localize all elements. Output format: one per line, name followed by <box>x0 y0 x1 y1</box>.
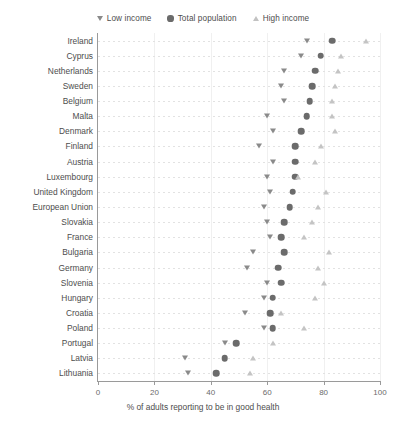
data-point-circle[interactable] <box>267 310 274 317</box>
legend-item-high-income[interactable]: High income <box>253 14 310 23</box>
x-tick-mark <box>98 381 99 385</box>
data-point-triangle-down[interactable] <box>264 174 270 179</box>
x-tick-label: 80 <box>319 388 328 397</box>
x-tick-label: 40 <box>206 388 215 397</box>
data-point-circle[interactable] <box>281 249 288 256</box>
data-point-triangle-down[interactable] <box>185 371 191 376</box>
data-point-triangle-down[interactable] <box>281 99 287 104</box>
data-point-circle[interactable] <box>275 264 282 271</box>
data-point-triangle-down[interactable] <box>264 114 270 119</box>
data-point-circle[interactable] <box>317 52 324 59</box>
data-point-triangle-down[interactable] <box>264 220 270 225</box>
y-axis-label: Lithuania <box>59 368 93 378</box>
data-point-triangle-down[interactable] <box>270 159 276 164</box>
data-point-triangle-down[interactable] <box>264 280 270 285</box>
data-point-triangle-up[interactable] <box>312 295 318 300</box>
y-gridline <box>98 146 380 147</box>
data-point-circle[interactable] <box>213 370 220 377</box>
data-point-triangle-up[interactable] <box>301 326 307 331</box>
data-point-triangle-down[interactable] <box>244 265 250 270</box>
data-point-triangle-down[interactable] <box>250 250 256 255</box>
y-axis-label: Denmark <box>59 126 93 136</box>
data-point-triangle-down[interactable] <box>261 205 267 210</box>
data-point-triangle-up[interactable] <box>363 38 369 43</box>
y-gridline <box>98 373 380 374</box>
data-point-circle[interactable] <box>329 37 336 44</box>
data-point-triangle-up[interactable] <box>332 83 338 88</box>
data-point-triangle-down[interactable] <box>304 38 310 43</box>
data-point-circle[interactable] <box>298 128 305 135</box>
x-tick-mark <box>324 381 325 385</box>
data-point-triangle-up[interactable] <box>250 356 256 361</box>
y-axis-label: European Union <box>32 202 93 212</box>
data-point-triangle-up[interactable] <box>315 265 321 270</box>
data-point-triangle-up[interactable] <box>309 220 315 225</box>
legend-item-low-income[interactable]: Low income <box>97 14 152 23</box>
data-point-circle[interactable] <box>281 219 288 226</box>
data-point-circle[interactable] <box>306 98 313 105</box>
data-point-triangle-down[interactable] <box>281 68 287 73</box>
y-gridline <box>98 268 380 269</box>
data-point-triangle-down[interactable] <box>298 53 304 58</box>
y-gridline <box>98 298 380 299</box>
x-tick-label: 100 <box>373 388 386 397</box>
data-point-triangle-down[interactable] <box>267 189 273 194</box>
data-point-triangle-down[interactable] <box>261 295 267 300</box>
data-point-circle[interactable] <box>289 189 296 196</box>
y-axis-label: Belgium <box>63 96 93 106</box>
y-axis-category-labels: IrelandCyprusNetherlandsSwedenBelgiumMal… <box>0 33 93 381</box>
y-gridline <box>98 162 380 163</box>
y-axis-label: Germany <box>59 263 93 273</box>
y-axis-label: France <box>67 232 93 242</box>
data-point-circle[interactable] <box>278 234 285 241</box>
data-point-triangle-up[interactable] <box>301 235 307 240</box>
data-point-triangle-up[interactable] <box>312 159 318 164</box>
data-point-triangle-down[interactable] <box>267 235 273 240</box>
y-axis-label: Finland <box>66 141 93 151</box>
data-point-circle[interactable] <box>233 340 240 347</box>
data-point-triangle-up[interactable] <box>323 189 329 194</box>
data-point-triangle-down[interactable] <box>222 341 228 346</box>
data-point-triangle-down[interactable] <box>182 356 188 361</box>
data-point-triangle-up[interactable] <box>247 371 253 376</box>
data-point-triangle-up[interactable] <box>329 99 335 104</box>
data-point-triangle-up[interactable] <box>326 250 332 255</box>
data-point-triangle-up[interactable] <box>338 53 344 58</box>
data-point-triangle-up[interactable] <box>332 129 338 134</box>
legend-item-total-population[interactable]: Total population <box>167 14 236 23</box>
data-point-circle[interactable] <box>292 158 299 165</box>
chart-legend: Low income Total population High income <box>0 14 406 23</box>
y-gridline <box>98 101 380 102</box>
data-point-circle[interactable] <box>292 143 299 150</box>
y-axis-label: Sweden <box>63 81 93 91</box>
y-axis-label: Croatia <box>66 308 93 318</box>
x-tick-label: 20 <box>150 388 159 397</box>
data-point-triangle-down[interactable] <box>261 326 267 331</box>
data-point-triangle-down[interactable] <box>278 83 284 88</box>
data-point-triangle-up[interactable] <box>321 280 327 285</box>
data-point-triangle-up[interactable] <box>335 68 341 73</box>
y-axis-label: Austria <box>67 157 93 167</box>
data-point-triangle-up[interactable] <box>270 341 276 346</box>
data-point-triangle-up[interactable] <box>329 114 335 119</box>
data-point-circle[interactable] <box>270 325 277 332</box>
data-point-circle[interactable] <box>286 204 293 211</box>
x-tick-mark <box>211 381 212 385</box>
data-point-triangle-up[interactable] <box>278 310 284 315</box>
data-point-circle[interactable] <box>303 113 310 120</box>
data-point-triangle-down[interactable] <box>242 310 248 315</box>
data-point-triangle-down[interactable] <box>270 129 276 134</box>
y-axis-label: Bulgaria <box>62 247 93 257</box>
data-point-circle[interactable] <box>270 294 277 301</box>
data-point-triangle-down[interactable] <box>256 144 262 149</box>
data-point-triangle-up[interactable] <box>315 205 321 210</box>
data-point-triangle-up[interactable] <box>318 144 324 149</box>
data-point-circle[interactable] <box>309 83 316 90</box>
data-point-triangle-up[interactable] <box>295 174 301 179</box>
legend-label-low-income: Low income <box>107 14 152 23</box>
data-point-circle[interactable] <box>278 279 285 286</box>
y-axis-label: United Kingdom <box>33 187 93 197</box>
data-point-circle[interactable] <box>312 68 319 75</box>
x-tick-mark <box>267 381 268 385</box>
data-point-circle[interactable] <box>222 355 229 362</box>
